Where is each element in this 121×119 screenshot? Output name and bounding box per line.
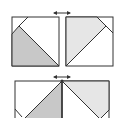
- join-arrow-top-icon: [53, 11, 71, 15]
- left-unit: [12, 17, 59, 66]
- right-unit: [66, 17, 113, 66]
- quilt-assembly-diagram: [0, 0, 121, 118]
- join-arrow-bottom-icon: [53, 75, 71, 79]
- joined-unit: [15, 80, 109, 119]
